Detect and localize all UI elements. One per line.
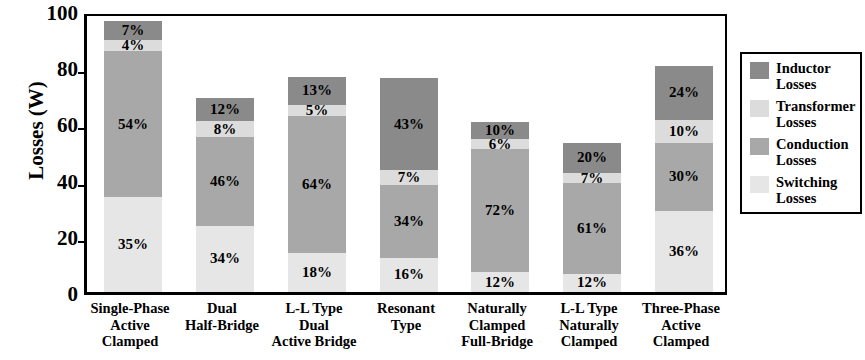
x-axis-category-line: Single-Phase: [84, 300, 176, 317]
bar-segment[interactable]: 24%: [655, 66, 713, 120]
bar-segment[interactable]: 30%: [655, 143, 713, 211]
x-axis-category-line: L-L Type: [268, 300, 360, 317]
stacked-bar[interactable]: 20%7%61%12%: [563, 143, 621, 292]
bar-segment[interactable]: 43%: [380, 78, 438, 170]
bar-segment[interactable]: 20%: [563, 143, 621, 173]
legend-item-label-line2: Losses: [776, 152, 849, 168]
x-axis-category-line: Clamped: [635, 333, 727, 350]
bar-segment[interactable]: 4%: [104, 40, 162, 51]
bar-segment[interactable]: 18%: [288, 253, 346, 292]
stacked-bar[interactable]: 13%5%64%18%: [288, 77, 346, 292]
bar-segment-percent-label: 35%: [118, 237, 148, 252]
bar-segment-percent-label: 54%: [118, 117, 148, 132]
legend-item-label: TransformerLosses: [776, 98, 855, 130]
bar-segment-percent-label: 30%: [669, 169, 699, 184]
y-tick-mark-80: [78, 72, 87, 74]
x-axis-category-label: L-L TypeNaturallyClamped: [543, 300, 635, 350]
bar-segment[interactable]: 16%: [380, 258, 438, 292]
bar-segment[interactable]: 46%: [196, 137, 254, 226]
y-tick-mark-60: [78, 128, 87, 130]
bar-segment[interactable]: 13%: [288, 77, 346, 105]
stacked-bar[interactable]: 43%7%34%16%: [380, 78, 438, 292]
stacked-bar-chart-figure: Losses (W) 020406080100 7%4%54%35%12%8%4…: [0, 0, 865, 360]
legend-swatch-inductor: [750, 62, 769, 79]
bar-segment[interactable]: 64%: [288, 116, 346, 254]
bar-segment[interactable]: 34%: [196, 226, 254, 292]
legend-item-label-line2: Losses: [776, 114, 855, 130]
legend-item-label: SwitchingLosses: [776, 174, 837, 206]
bar-segment[interactable]: 54%: [104, 51, 162, 197]
plot-area: 7%4%54%35%12%8%46%34%13%5%64%18%43%7%34%…: [84, 14, 727, 295]
bar-segment[interactable]: 61%: [563, 183, 621, 274]
bar-segment-percent-label: 10%: [669, 124, 699, 139]
bar-segment[interactable]: 12%: [196, 98, 254, 121]
x-axis-category-line: Naturally: [451, 300, 543, 317]
stacked-bar[interactable]: 24%10%30%36%: [655, 66, 713, 292]
legend-item[interactable]: ConductionLosses: [750, 136, 860, 168]
x-axis-category-line: Type: [360, 317, 452, 334]
bar-segment-percent-label: 7%: [122, 23, 145, 38]
bar-segment-percent-label: 7%: [398, 170, 421, 185]
legend-item-label-line2: Losses: [776, 190, 837, 206]
bar-segment-percent-label: 13%: [302, 83, 332, 98]
bar-segment[interactable]: 5%: [288, 105, 346, 116]
y-tick-label-100: 100: [26, 3, 78, 24]
y-tick-label-0: 0: [26, 284, 78, 305]
bar-segment-percent-label: 64%: [302, 177, 332, 192]
stacked-bar[interactable]: 12%8%46%34%: [196, 98, 254, 292]
bar-segment-percent-label: 18%: [302, 265, 332, 280]
bar-segment[interactable]: 8%: [196, 121, 254, 136]
y-tick-label-60: 60: [26, 115, 78, 136]
stacked-bar[interactable]: 10%6%72%12%: [471, 122, 529, 292]
x-axis-category-line: Clamped: [543, 333, 635, 350]
bar-segment[interactable]: 12%: [563, 274, 621, 292]
x-axis-category-label: L-L TypeDualActive Bridge: [268, 300, 360, 350]
bar-segment[interactable]: 36%: [655, 211, 713, 292]
bar-segment-percent-label: 16%: [394, 267, 424, 282]
x-axis-category-line: Active: [84, 317, 176, 334]
y-tick-mark-20: [78, 241, 87, 243]
bar-segment-percent-label: 61%: [577, 221, 607, 236]
legend-swatch-transformer: [750, 100, 769, 117]
legend-item[interactable]: SwitchingLosses: [750, 174, 860, 206]
bar-segment-percent-label: 8%: [214, 122, 237, 137]
legend-item[interactable]: InductorLosses: [750, 60, 860, 92]
x-axis-category-label: NaturallyClampedFull-Bridge: [451, 300, 543, 350]
x-axis-category-line: Active Bridge: [268, 333, 360, 350]
bar-segment[interactable]: 6%: [471, 139, 529, 149]
y-tick-label-40: 40: [26, 172, 78, 193]
y-tick-label-20: 20: [26, 228, 78, 249]
bar-segment-percent-label: 24%: [669, 85, 699, 100]
bar-segment-percent-label: 34%: [210, 251, 240, 266]
bar-segment-percent-label: 20%: [577, 150, 607, 165]
bar-segment-percent-label: 46%: [210, 174, 240, 189]
legend-item[interactable]: TransformerLosses: [750, 98, 860, 130]
legend-item-label-line1: Inductor: [776, 60, 831, 76]
legend-swatch-conduction: [750, 138, 769, 155]
legend-item-label-line1: Conduction: [776, 136, 849, 152]
bar-segment[interactable]: 34%: [380, 185, 438, 257]
legend-item-label-line1: Switching: [776, 174, 837, 190]
bar-segment[interactable]: 7%: [380, 170, 438, 185]
x-axis-category-line: Active: [635, 317, 727, 334]
bar-segment-percent-label: 36%: [669, 244, 699, 259]
x-axis-category-line: L-L Type: [543, 300, 635, 317]
x-axis-category-line: Three-Phase: [635, 300, 727, 317]
x-axis-category-line: Dual: [176, 300, 268, 317]
x-axis-category-line: Naturally: [543, 317, 635, 334]
bar-segment[interactable]: 7%: [563, 173, 621, 183]
bar-segment[interactable]: 12%: [471, 272, 529, 293]
x-axis-category-line: Full-Bridge: [451, 333, 543, 350]
bar-segment-percent-label: 12%: [577, 275, 607, 290]
bar-segment-percent-label: 43%: [394, 117, 424, 132]
bar-segment-percent-label: 12%: [485, 275, 515, 290]
chart-legend: InductorLossesTransformerLossesConductio…: [740, 52, 862, 214]
bar-segment-percent-label: 34%: [394, 214, 424, 229]
bar-segment[interactable]: 35%: [104, 197, 162, 292]
stacked-bar[interactable]: 7%4%54%35%: [104, 21, 162, 292]
bar-segment[interactable]: 72%: [471, 149, 529, 272]
bar-segment[interactable]: 10%: [655, 120, 713, 143]
legend-swatch-switching: [750, 176, 769, 193]
y-tick-mark-40: [78, 185, 87, 187]
bar-segment-percent-label: 72%: [485, 203, 515, 218]
